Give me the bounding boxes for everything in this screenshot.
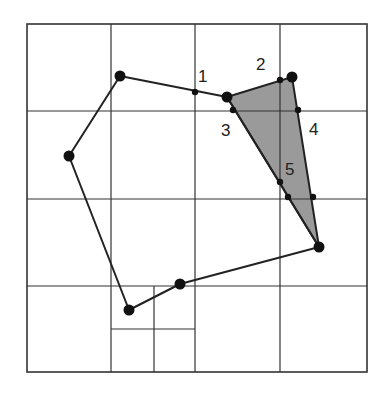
intersection-point-1 [192, 89, 198, 95]
polygon-edge-5 [69, 76, 120, 156]
polygon-vertex-1 [115, 71, 126, 82]
point-label-3: 3 [221, 121, 230, 140]
polygon-edge-4 [69, 156, 129, 310]
intersection-point-6 [285, 194, 291, 200]
intersection-point-2 [277, 77, 283, 83]
point-label-5: 5 [285, 160, 294, 179]
shaded-triangle [227, 77, 319, 247]
polygon-edge-0 [120, 76, 227, 97]
quadtree-polygon-diagram: 12345 [0, 0, 389, 393]
polygon-vertex-3 [287, 72, 298, 83]
intersection-point-5 [277, 179, 283, 185]
point-label-2: 2 [256, 55, 265, 74]
polygon-vertex-5 [175, 279, 186, 290]
polygon-vertex-4 [314, 242, 325, 253]
point-label-1: 1 [198, 67, 207, 86]
shaded-clip-region [227, 77, 319, 247]
polygon-vertex-2 [222, 92, 233, 103]
intersection-point-4 [295, 107, 301, 113]
polygon-vertex-6 [124, 305, 135, 316]
point-label-4: 4 [309, 120, 318, 139]
polygon-edge-2 [180, 247, 319, 284]
intersection-point-7 [310, 194, 316, 200]
polygon-vertex-7 [64, 151, 75, 162]
intersection-point-3 [230, 107, 236, 113]
